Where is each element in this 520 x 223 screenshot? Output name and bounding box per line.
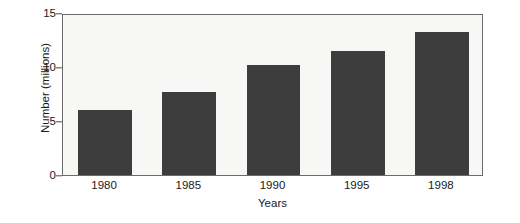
x-axis-tick-labels: 19801985199019951998 (62, 179, 483, 195)
y-tick-label: 10 (30, 62, 56, 74)
y-tick-label: 15 (30, 8, 56, 20)
bar (78, 110, 132, 175)
x-tick-label: 1998 (428, 179, 454, 191)
x-tick-label: 1980 (91, 179, 117, 191)
bars-container (63, 15, 482, 175)
y-tick-label: 5 (30, 116, 56, 128)
x-axis-title: Years (62, 197, 483, 209)
bar (162, 92, 216, 175)
y-axis-tick-labels: 051015 (30, 0, 56, 223)
bar (331, 51, 385, 175)
x-tick-label: 1985 (176, 179, 202, 191)
bar-chart-figure: Number (millions) 051015 198019851990199… (0, 0, 520, 223)
plot-area (62, 14, 483, 176)
bar (415, 32, 469, 175)
x-tick-label: 1995 (344, 179, 370, 191)
y-tick-label: 0 (30, 170, 56, 182)
bar (247, 65, 301, 175)
x-tick-label: 1990 (260, 179, 286, 191)
